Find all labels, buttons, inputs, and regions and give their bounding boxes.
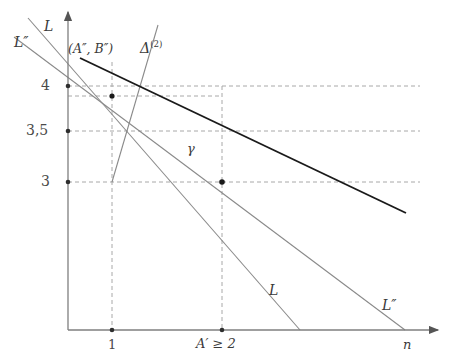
label-L-double-prime-bottom: L″ xyxy=(382,298,397,312)
x-tick-A xyxy=(220,328,225,333)
y-tick-3-5 xyxy=(66,129,71,134)
label-n-axis: n xyxy=(403,338,411,351)
y-tick-3 xyxy=(66,180,71,185)
label-point-AB: (A″, B″) xyxy=(68,43,113,56)
label-gamma: γ xyxy=(187,142,195,155)
y-tick-label-3-5: 3,5 xyxy=(26,123,48,137)
label-L-double-prime-top: L″ xyxy=(14,35,29,49)
label-delta-superscript: (2) xyxy=(150,39,162,49)
y-tick-label-3: 3 xyxy=(41,174,50,188)
label-L-double-prime-top-text: L″ xyxy=(14,34,29,50)
y-tick-4 xyxy=(66,84,71,89)
curve-L-double-prime xyxy=(14,37,405,330)
point-intersection-upper xyxy=(109,93,114,98)
point-intersection-gamma xyxy=(219,179,225,185)
curve-L xyxy=(28,18,300,330)
x-tick-label-A: A′ ≥ 2 xyxy=(196,337,236,350)
label-L-bottom: L xyxy=(269,283,278,297)
label-delta-2: Δ(2) xyxy=(140,40,162,55)
label-L-top: L xyxy=(44,19,53,33)
y-tick-label-4: 4 xyxy=(41,78,50,92)
curve-gamma xyxy=(80,58,406,213)
label-delta-text: Δ xyxy=(140,40,150,56)
x-tick-label-1: 1 xyxy=(108,338,116,351)
x-tick-1 xyxy=(110,328,115,333)
diagram-canvas: L L″ (A″, B″) Δ(2) γ L L″ n 4 3,5 3 1 A′… xyxy=(0,0,452,364)
